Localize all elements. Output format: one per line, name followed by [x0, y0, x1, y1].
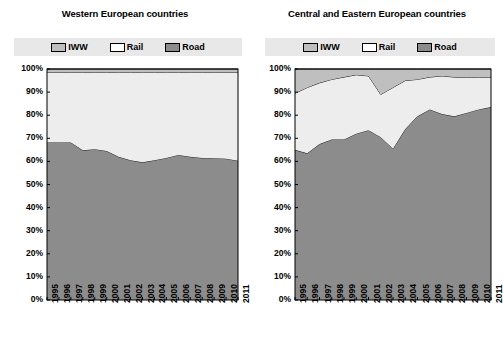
area-iww — [47, 69, 238, 72]
x-axis-label: 2009 — [218, 284, 227, 303]
y-axis-label: 20% — [11, 249, 43, 258]
x-axis-label: 2011 — [242, 285, 251, 303]
y-axis-label: 10% — [11, 272, 43, 281]
y-axis-label: 90% — [11, 87, 43, 96]
chart-panel-cee: Central and Eastern European countries I… — [251, 0, 503, 342]
x-axis-label: 1998 — [87, 284, 96, 303]
y-axis-label: 40% — [259, 203, 291, 212]
y-axis-label: 80% — [259, 110, 291, 119]
x-axis-label: 1998 — [336, 284, 345, 303]
x-axis-label: 1996 — [311, 284, 320, 303]
y-axis-label: 50% — [11, 180, 43, 189]
y-axis-label: 80% — [11, 110, 43, 119]
x-axis-label: 1999 — [99, 284, 108, 303]
y-axis-label: 60% — [259, 156, 291, 165]
x-axis-label: 2000 — [360, 284, 369, 303]
x-axis-label: 2010 — [230, 284, 239, 303]
x-axis-label: 2011 — [495, 285, 503, 303]
chart-panel-western: Western European countries IWW Rail Road… — [0, 0, 250, 342]
x-axis-label: 2004 — [409, 284, 418, 303]
x-axis-label: 2007 — [194, 284, 203, 303]
y-axis-label: 60% — [11, 156, 43, 165]
x-axis-label: 1997 — [324, 284, 333, 303]
figure-root: Western European countries IWW Rail Road… — [0, 0, 503, 342]
x-axis-label: 2001 — [123, 284, 132, 303]
x-axis-label: 2006 — [434, 284, 443, 303]
x-axis-label: 1995 — [51, 284, 60, 303]
x-axis-label: 2009 — [471, 284, 480, 303]
area-road — [47, 142, 238, 300]
x-axis-label: 2000 — [111, 284, 120, 303]
x-axis-label: 2005 — [422, 284, 431, 303]
x-axis-label: 1999 — [348, 284, 357, 303]
y-axis-label: 100% — [11, 64, 43, 73]
x-axis-label: 2002 — [385, 284, 394, 303]
x-axis-label: 2001 — [373, 284, 382, 303]
x-axis-label: 2010 — [483, 284, 492, 303]
x-axis-label: 2005 — [170, 284, 179, 303]
y-axis-label: 50% — [259, 180, 291, 189]
x-axis-label: 2008 — [206, 284, 215, 303]
x-axis-label: 1996 — [63, 284, 72, 303]
y-axis-label: 0% — [11, 295, 43, 304]
y-axis-label: 40% — [11, 203, 43, 212]
x-axis-label: 2004 — [158, 284, 167, 303]
x-axis-label: 2003 — [397, 284, 406, 303]
y-axis-label: 70% — [259, 133, 291, 142]
y-axis-label: 30% — [11, 226, 43, 235]
y-axis-label: 0% — [259, 295, 291, 304]
y-axis-label: 30% — [259, 226, 291, 235]
x-axis-label: 1995 — [299, 284, 308, 303]
y-axis-label: 70% — [11, 133, 43, 142]
x-axis-label: 2003 — [147, 284, 156, 303]
y-axis-label: 90% — [259, 87, 291, 96]
x-axis-label: 2002 — [135, 284, 144, 303]
x-axis-label: 2006 — [182, 284, 191, 303]
x-axis-label: 2008 — [458, 284, 467, 303]
x-axis-label: 2007 — [446, 284, 455, 303]
y-axis-label: 20% — [259, 249, 291, 258]
y-axis-label: 10% — [259, 272, 291, 281]
x-axis-label: 1997 — [75, 284, 84, 303]
y-axis-label: 100% — [259, 64, 291, 73]
